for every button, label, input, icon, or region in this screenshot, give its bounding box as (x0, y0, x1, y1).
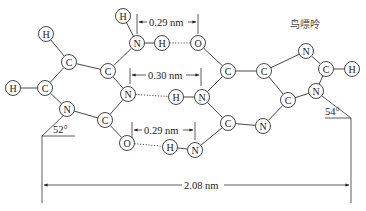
covalent-bond (110, 125, 122, 137)
atom-n: N (195, 90, 210, 105)
atom-symbol: N (259, 121, 266, 132)
covalent-bond (268, 105, 283, 120)
molecule-title: 鸟嘌呤 (290, 18, 320, 30)
covalent-bond (51, 40, 64, 56)
atom-symbol: N (302, 46, 309, 57)
atom-h: H (155, 36, 170, 51)
atom-symbol: C (225, 66, 232, 77)
atom-symbol: N (63, 104, 70, 115)
covalent-bond (203, 48, 222, 66)
atom-n: N (130, 36, 145, 51)
dim-label-overall: 2.08 nm (184, 180, 218, 191)
atom-symbol: O (194, 38, 201, 49)
atom-symbol: O (123, 138, 130, 149)
atom-layer: HHNHCCHCNHNCOHOCCNCHNNCCNN (6, 9, 360, 158)
covalent-bond (76, 64, 100, 70)
atom-symbol: H (9, 83, 16, 94)
covalent-bond (319, 76, 323, 84)
covalent-bond (74, 111, 98, 118)
covalent-bond (201, 128, 222, 146)
covalent-bond (207, 76, 222, 91)
dim-label-bottom: 0.29 nm (144, 125, 178, 136)
atom-c: C (98, 113, 113, 128)
atom-c: C (62, 55, 77, 70)
atom-symbol: C (285, 95, 292, 106)
atom-symbol: C (225, 118, 232, 129)
atom-h: H (345, 62, 360, 77)
atom-symbol: H (172, 92, 179, 103)
atom-symbol: C (323, 64, 330, 75)
atom-symbol: C (261, 66, 268, 77)
atom-h: H (39, 27, 54, 42)
covalent-bond (271, 54, 299, 68)
atom-symbol: H (158, 38, 165, 49)
atom-n: N (299, 44, 314, 59)
covalent-bond (113, 48, 131, 66)
dim-label-middle: 0.30 nm (148, 70, 182, 81)
diagram-svg: 0.29 nm 0.30 nm 0.29 nm 2.08 nm 52° (0, 0, 366, 211)
atom-n: N (256, 119, 271, 134)
covalent-bond (312, 56, 321, 64)
atom-h: H (163, 140, 178, 155)
covalent-bond (50, 68, 64, 83)
atom-n: N (309, 84, 324, 99)
hydrogen-bond (135, 94, 168, 96)
atom-symbol: N (198, 92, 205, 103)
atom-h: H (116, 9, 131, 24)
covalent-bond (177, 148, 187, 149)
atom-h: H (169, 90, 184, 105)
atom-c: C (101, 64, 116, 79)
atom-h: H (6, 81, 21, 96)
atom-symbol: N (133, 38, 140, 49)
angle-left-label: 52° (53, 124, 68, 135)
hydrogen-bond (134, 144, 162, 147)
atom-symbol: H (166, 142, 173, 153)
atom-c: C (257, 64, 272, 79)
atom-symbol: H (348, 64, 355, 75)
atom-symbol: C (66, 57, 73, 68)
covalent-bond (126, 23, 133, 37)
atom-symbol: N (124, 89, 131, 100)
covalent-bond (50, 93, 61, 104)
atom-symbol: C (102, 115, 109, 126)
bond-layer (21, 23, 345, 149)
atom-symbol: N (191, 145, 198, 156)
covalent-bond (295, 93, 309, 97)
dim-label-top: 0.29 nm (149, 17, 183, 28)
atom-n: N (188, 143, 203, 158)
atom-n: N (60, 102, 75, 117)
atom-c: C (38, 81, 53, 96)
covalent-bond (113, 77, 123, 89)
atom-c: C (221, 64, 236, 79)
covalent-bond (110, 100, 123, 115)
atom-symbol: N (312, 86, 319, 97)
atom-o: O (120, 136, 135, 151)
base-pair-diagram: 0.29 nm 0.30 nm 0.29 nm 2.08 nm 52° (0, 0, 366, 211)
atom-symbol: C (105, 66, 112, 77)
atom-symbol: C (42, 83, 49, 94)
angle-right-label: 54° (325, 106, 340, 117)
atom-symbol: H (119, 11, 126, 22)
covalent-bond (235, 124, 255, 126)
atom-o: O (191, 36, 206, 51)
covalent-bond (269, 77, 283, 94)
atom-c: C (319, 62, 334, 77)
atom-c: C (281, 93, 296, 108)
covalent-bond (207, 102, 222, 117)
atom-c: C (221, 116, 236, 131)
atom-n: N (121, 87, 136, 102)
atom-symbol: H (42, 29, 49, 40)
